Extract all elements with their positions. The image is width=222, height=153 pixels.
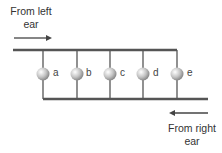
node-label-d: d <box>153 67 159 78</box>
left-ear-label-line2: ear <box>6 18 56 31</box>
left-arrow-icon <box>14 35 52 41</box>
left-ear-label: From left ear <box>6 5 56 31</box>
left-ear-label-line1: From left <box>6 5 56 18</box>
node-label-a: a <box>53 67 59 78</box>
right-ear-label-line1: From right <box>163 122 221 135</box>
node-label-c: c <box>120 67 125 78</box>
node-label-b: b <box>86 67 92 78</box>
right-ear-label-line2: ear <box>163 135 221 148</box>
right-ear-label: From right ear <box>163 122 221 148</box>
node-label-e: e <box>187 67 193 78</box>
right-arrow-icon <box>169 110 208 116</box>
